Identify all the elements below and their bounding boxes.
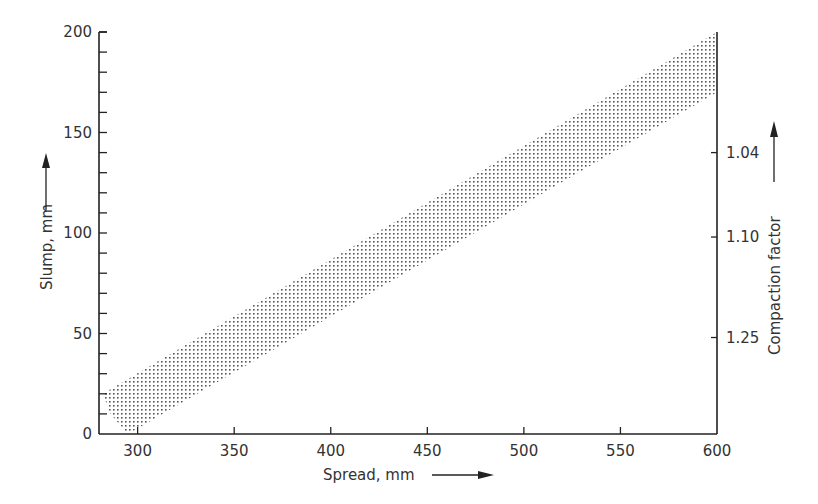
y-axis-title: Slump, mm bbox=[38, 153, 56, 290]
arrow-right-icon bbox=[478, 471, 494, 479]
arrow-up-icon bbox=[770, 121, 778, 137]
chart: 0501001502003003504004505005506001.041.1… bbox=[0, 0, 818, 504]
band-area bbox=[103, 32, 717, 434]
y2-tick-label: 1.04 bbox=[726, 144, 759, 162]
y2-axis-title: Compaction factor bbox=[766, 121, 784, 355]
y2-axis-label: Compaction factor bbox=[766, 215, 784, 355]
x-tick-label: 300 bbox=[123, 442, 152, 460]
x-tick-label: 350 bbox=[220, 442, 249, 460]
slump-spread-band bbox=[103, 32, 717, 434]
x-axis-title: Spread, mm bbox=[323, 466, 494, 484]
y-tick-label: 100 bbox=[63, 224, 92, 242]
y-tick-label: 50 bbox=[73, 325, 92, 343]
y-tick-label: 0 bbox=[82, 425, 92, 443]
x-tick-label: 600 bbox=[703, 442, 732, 460]
y-axis-label: Slump, mm bbox=[38, 204, 56, 290]
y-tick-label: 200 bbox=[63, 23, 92, 41]
x-tick-label: 500 bbox=[510, 442, 539, 460]
x-tick-label: 550 bbox=[606, 442, 635, 460]
y2-tick-label: 1.25 bbox=[726, 329, 759, 347]
arrow-up-icon bbox=[42, 153, 50, 168]
x-tick-label: 450 bbox=[413, 442, 442, 460]
y2-tick-label: 1.10 bbox=[726, 228, 759, 246]
x-tick-label: 400 bbox=[316, 442, 345, 460]
y-tick-label: 150 bbox=[63, 124, 92, 142]
x-axis-label: Spread, mm bbox=[323, 466, 415, 484]
